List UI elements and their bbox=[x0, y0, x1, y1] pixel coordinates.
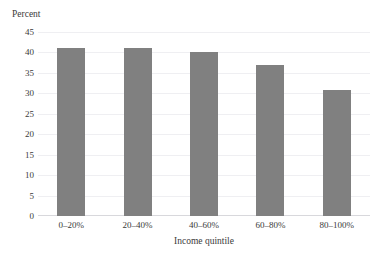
bar bbox=[256, 65, 284, 216]
y-axis-tick-labels: 051015202530354045 bbox=[0, 32, 34, 216]
y-tick-label: 20 bbox=[8, 129, 34, 139]
y-tick-label: 10 bbox=[8, 170, 34, 180]
bar bbox=[124, 48, 152, 216]
bar-chart-figure: Percent 051015202530354045 0–20%20–40%40… bbox=[0, 0, 380, 263]
x-axis-tick-labels: 0–20%20–40%40–60%60–80%80–100% bbox=[38, 220, 370, 234]
x-tick-label: 0–20% bbox=[58, 220, 84, 230]
x-tick-label: 20–40% bbox=[123, 220, 153, 230]
y-axis-title: Percent bbox=[12, 9, 41, 19]
y-tick-label: 35 bbox=[8, 68, 34, 78]
x-tick-label: 80–100% bbox=[320, 220, 355, 230]
y-tick-label: 30 bbox=[8, 88, 34, 98]
x-tick-label: 40–60% bbox=[189, 220, 219, 230]
y-tick-label: 25 bbox=[8, 109, 34, 119]
y-tick-label: 40 bbox=[8, 47, 34, 57]
y-tick-label: 45 bbox=[8, 27, 34, 37]
bar bbox=[57, 48, 85, 216]
chart-title bbox=[0, 0, 380, 2]
y-tick-label: 0 bbox=[8, 211, 34, 221]
bar bbox=[323, 90, 351, 216]
x-axis-title: Income quintile bbox=[38, 236, 370, 246]
bar bbox=[190, 52, 218, 216]
bar-series bbox=[38, 32, 370, 216]
x-tick-label: 60–80% bbox=[255, 220, 285, 230]
y-tick-label: 5 bbox=[8, 191, 34, 201]
y-tick-label: 15 bbox=[8, 150, 34, 160]
plot-area bbox=[38, 32, 370, 216]
